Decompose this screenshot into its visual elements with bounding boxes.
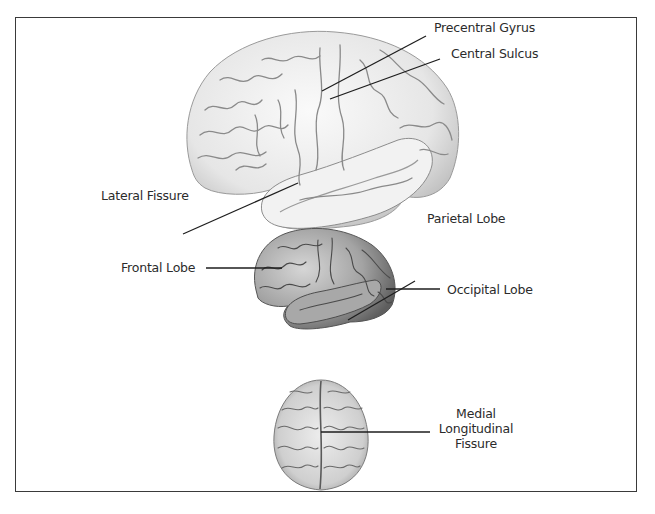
- small-lateral-brain: [254, 228, 395, 329]
- label-fissure-line: Fissure: [432, 436, 520, 451]
- label-occipital-lobe: Occipital Lobe: [447, 282, 533, 297]
- label-frontal-lobe: Frontal Lobe: [121, 260, 195, 275]
- label-lateral-fissure: Lateral Fissure: [101, 188, 189, 203]
- label-parietal-lobe: Parietal Lobe: [427, 211, 505, 226]
- label-central-sulcus: Central Sulcus: [451, 46, 538, 61]
- label-longitudinal-line: Longitudinal: [432, 421, 520, 436]
- large-lateral-brain: [187, 31, 459, 229]
- label-medial-longitudinal-fissure: Medial Longitudinal Fissure: [432, 406, 520, 451]
- label-precentral-gyrus: Precentral Gyrus: [434, 20, 535, 35]
- label-medial-line: Medial: [432, 406, 520, 421]
- brain-illustrations: [0, 0, 655, 514]
- superior-view-brain: [274, 380, 368, 490]
